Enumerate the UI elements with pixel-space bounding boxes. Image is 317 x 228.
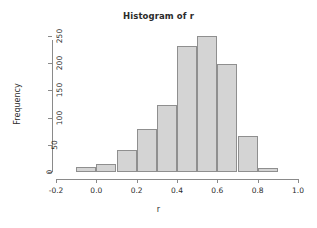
y-axis-tick (48, 63, 52, 64)
y-axis-tick-label: 0 (45, 172, 54, 177)
chart-title: Histogram of r (0, 11, 317, 21)
y-axis-tick (48, 90, 52, 91)
histogram-bar (76, 167, 96, 172)
x-axis-tick (217, 179, 218, 183)
y-axis-tick-label: 150 (55, 90, 64, 104)
histogram-bar (96, 164, 116, 172)
x-axis-tick-label: 1.0 (292, 186, 304, 195)
x-axis-title: r (0, 205, 317, 214)
x-axis-tick (298, 179, 299, 183)
y-axis-tick-label: 100 (55, 118, 64, 132)
x-axis-tick-label: 0.8 (252, 186, 264, 195)
y-axis-title: Frequency (13, 83, 22, 124)
histogram-bar (238, 136, 258, 172)
histogram-bar (117, 150, 137, 172)
y-axis-tick-label: 200 (55, 63, 64, 77)
y-axis-tick-label: 50 (50, 145, 59, 155)
x-axis-tick (258, 179, 259, 183)
plot-area (56, 36, 298, 172)
y-axis-tick-label: 250 (55, 36, 64, 50)
histogram-bar (177, 46, 197, 172)
histogram-bar (217, 64, 237, 172)
x-axis-tick-label: 0.0 (90, 186, 102, 195)
x-axis-tick (177, 179, 178, 183)
x-axis-tick-label: -0.2 (49, 186, 64, 195)
histogram-bar (137, 129, 157, 172)
x-axis-tick-label: 0.4 (171, 186, 183, 195)
histogram-bars (56, 36, 298, 172)
histogram-plot: Histogram of r -0.20.00.20.40.60.81.0 05… (0, 0, 317, 228)
histogram-bar (258, 168, 278, 172)
x-axis-tick-label: 0.6 (211, 186, 223, 195)
histogram-bar (157, 105, 177, 172)
histogram-bar (197, 36, 217, 172)
y-axis-tick (48, 118, 52, 119)
x-axis-tick (96, 179, 97, 183)
x-axis-tick-label: 0.2 (131, 186, 143, 195)
x-axis-tick (137, 179, 138, 183)
y-axis-tick (48, 36, 52, 37)
x-axis-tick (56, 179, 57, 183)
